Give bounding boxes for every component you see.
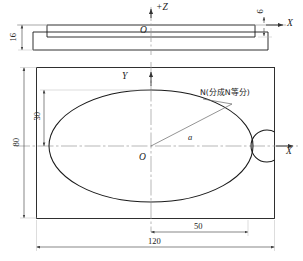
z-axis-label: +Z: [156, 3, 168, 13]
dim-label-80: 80: [12, 138, 21, 147]
x-axis-label: X: [286, 147, 292, 157]
y-axis-label: Y: [122, 72, 127, 82]
dim-label-120: 120: [148, 237, 161, 246]
top-plate-lower-outline: [33, 32, 268, 50]
dim-label-step-6: 6: [256, 9, 265, 13]
dim-label-thickness-16: 16: [9, 33, 18, 42]
division-annotation: N(分成N等分): [200, 89, 250, 97]
origin-label: O: [139, 153, 146, 163]
drawing-vector-layer: [0, 0, 303, 261]
technical-drawing-canvas: +Z X O 16 6 Y X O a N(分成N等分) 30 80 50 12…: [0, 0, 303, 261]
top-view-x-axis-label: X: [287, 19, 293, 29]
main-view-group: [14, 62, 298, 251]
radius-label-a: a: [188, 133, 192, 142]
top-view-group: [17, 7, 286, 55]
dim-label-30: 30: [33, 112, 42, 121]
dim-label-50: 50: [194, 222, 203, 231]
top-view-origin-label: O: [140, 26, 147, 36]
